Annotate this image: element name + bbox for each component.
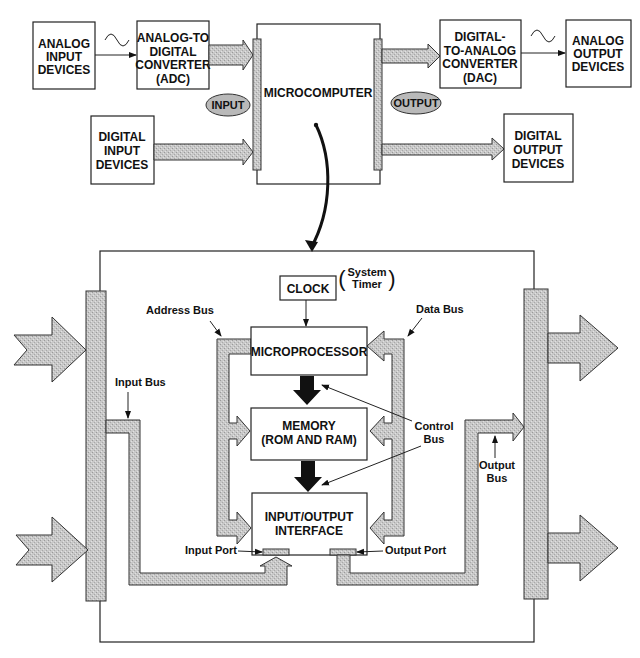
clock-box: CLOCK bbox=[280, 276, 336, 300]
adc-label-3: CONVERTER bbox=[135, 58, 211, 72]
control-bus-label-1: Control bbox=[414, 420, 453, 432]
memory-box: MEMORY (ROM AND RAM) bbox=[251, 408, 367, 460]
output-bus-label-2: Bus bbox=[487, 472, 508, 484]
address-bus-label: Address Bus bbox=[146, 304, 214, 316]
microprocessor-box: MICROPROCESSOR bbox=[251, 327, 368, 375]
output-tag-label: OUTPUT bbox=[393, 97, 439, 109]
memory-label-1: MEMORY bbox=[282, 419, 336, 433]
digital-output-bus-arrow bbox=[382, 138, 504, 160]
sine-wave-icon bbox=[531, 30, 555, 42]
input-port-strip bbox=[253, 39, 261, 170]
analog-input-label-1: ANALOG bbox=[38, 37, 90, 51]
output-port-label: Output Port bbox=[385, 544, 446, 556]
system-timer-label-1: System bbox=[347, 266, 386, 278]
microcomputer-to-dac-bus-arrow bbox=[382, 44, 440, 68]
system-timer-label-2: Timer bbox=[352, 278, 382, 290]
analog-output-label-2: OUTPUT bbox=[573, 47, 623, 61]
digital-input-label-3: DEVICES bbox=[96, 158, 149, 172]
adc-label-1: ANALOG-TO bbox=[137, 31, 209, 45]
input-bus-label: Input Bus bbox=[115, 376, 166, 388]
io-interface-label-1: INPUT/OUTPUT bbox=[265, 510, 354, 524]
sine-wave-icon bbox=[105, 34, 129, 46]
data-bus-label: Data Bus bbox=[416, 303, 464, 315]
left-input-port-bar bbox=[86, 291, 106, 601]
io-interface-box: INPUT/OUTPUT INTERFACE bbox=[252, 493, 367, 555]
control-bus-label-2: Bus bbox=[424, 433, 445, 445]
analog-input-devices-box: ANALOG INPUT DEVICES bbox=[33, 22, 95, 89]
adc-to-microcomputer-bus-arrow bbox=[209, 40, 253, 70]
analog-output-label-3: DEVICES bbox=[572, 60, 625, 74]
dac-label-4: (DAC) bbox=[463, 71, 497, 85]
data-bus-pointer bbox=[408, 318, 422, 336]
external-output-arrow-2 bbox=[548, 515, 618, 581]
input-port-slot bbox=[263, 549, 289, 555]
analog-output-label-1: ANALOG bbox=[572, 34, 624, 48]
zoom-in-arrowhead bbox=[305, 240, 318, 252]
right-output-port-bar bbox=[524, 289, 548, 599]
cpu-to-memory-control-arrow bbox=[293, 376, 321, 405]
microcomputer-label: MICROCOMPUTER bbox=[264, 86, 373, 100]
digital-output-label-3: DEVICES bbox=[512, 157, 565, 171]
address-bus bbox=[217, 339, 251, 544]
memory-label-2: (ROM AND RAM) bbox=[261, 433, 357, 447]
paren-close: ) bbox=[388, 266, 395, 291]
dac-label-1: DIGITAL- bbox=[454, 30, 505, 44]
dac-box: DIGITAL- TO-ANALOG CONVERTER (DAC) bbox=[440, 20, 521, 88]
output-bus-label-1: Output bbox=[479, 459, 515, 471]
output-port-slot bbox=[330, 549, 356, 555]
microcomputer-box: MICROCOMPUTER bbox=[257, 24, 380, 184]
address-bus-pointer bbox=[210, 321, 221, 336]
external-output-arrow-1 bbox=[548, 315, 618, 381]
adc-box: ANALOG-TO DIGITAL CONVERTER (ADC) bbox=[135, 21, 211, 89]
digital-input-bus-arrow bbox=[154, 139, 253, 165]
adc-label-4: (ADC) bbox=[156, 72, 190, 86]
paren-open: ( bbox=[338, 266, 346, 291]
analog-output-devices-box: ANALOG OUTPUT DEVICES bbox=[566, 20, 631, 87]
digital-output-label-1: DIGITAL bbox=[514, 129, 561, 143]
clock-label: CLOCK bbox=[287, 282, 330, 296]
digital-output-devices-box: DIGITAL OUTPUT DEVICES bbox=[504, 114, 573, 182]
digital-input-label-2: INPUT bbox=[104, 144, 141, 158]
output-port-strip bbox=[374, 39, 382, 170]
external-input-arrow-2 bbox=[16, 517, 88, 582]
digital-input-label-1: DIGITAL bbox=[98, 130, 145, 144]
microcomputer-block-diagram: ANALOG INPUT DEVICES ANALOG-TO DIGITAL C… bbox=[0, 0, 640, 658]
adc-label-2: DIGITAL bbox=[149, 45, 196, 59]
dac-label-3: CONVERTER bbox=[442, 57, 518, 71]
analog-input-label-2: INPUT bbox=[46, 50, 83, 64]
analog-input-label-3: DEVICES bbox=[38, 63, 91, 77]
dac-label-2: TO-ANALOG bbox=[444, 44, 516, 58]
input-tag-label: INPUT bbox=[212, 99, 245, 111]
digital-output-label-2: OUTPUT bbox=[513, 143, 563, 157]
input-port-label: Input Port bbox=[185, 544, 237, 556]
io-interface-label-2: INTERFACE bbox=[275, 524, 343, 538]
microprocessor-label: MICROPROCESSOR bbox=[251, 345, 368, 359]
external-input-arrow-1 bbox=[14, 317, 86, 382]
memory-to-io-control-arrow bbox=[294, 461, 322, 492]
digital-input-devices-box: DIGITAL INPUT DEVICES bbox=[91, 116, 154, 184]
data-bus bbox=[367, 331, 404, 544]
